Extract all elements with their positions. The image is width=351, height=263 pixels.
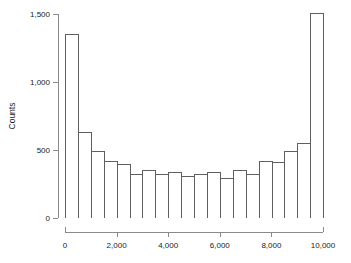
plot-area bbox=[65, 14, 323, 218]
histogram-bar bbox=[117, 164, 131, 218]
histogram-chart: 05001,0001,500 Counts 02,0004,0006,0008,… bbox=[0, 0, 351, 263]
y-axis-title: Counts bbox=[7, 66, 17, 166]
y-axis-tick bbox=[53, 218, 58, 219]
histogram-bar bbox=[168, 172, 182, 218]
histogram-bar bbox=[259, 161, 273, 218]
histogram-bar bbox=[194, 174, 208, 218]
x-axis-tick-label: 6,000 bbox=[210, 241, 230, 250]
histogram-bar bbox=[233, 170, 247, 218]
x-axis-line bbox=[65, 232, 323, 233]
x-axis-tick bbox=[168, 232, 169, 237]
bar-series bbox=[65, 14, 323, 218]
x-axis-tick bbox=[271, 232, 272, 237]
x-axis-tick bbox=[117, 232, 118, 237]
histogram-bar bbox=[272, 162, 286, 218]
x-axis-tick-label: 10,000 bbox=[311, 241, 335, 250]
x-axis-tick bbox=[323, 227, 324, 232]
y-axis-tick bbox=[53, 14, 58, 15]
histogram-bar bbox=[297, 143, 311, 218]
histogram-bar bbox=[91, 151, 105, 218]
x-axis-tick-label: 4,000 bbox=[158, 241, 178, 250]
histogram-bar bbox=[310, 13, 324, 218]
y-axis-tick bbox=[53, 150, 58, 151]
histogram-bar bbox=[78, 132, 92, 218]
histogram-bar bbox=[246, 174, 260, 218]
x-axis-tick bbox=[65, 227, 66, 232]
x-axis-tick-label: 8,000 bbox=[261, 241, 281, 250]
y-axis-tick bbox=[53, 82, 58, 83]
histogram-bar bbox=[207, 172, 221, 218]
histogram-bar bbox=[220, 178, 234, 218]
histogram-bar bbox=[104, 161, 118, 218]
x-axis-tick-label: 2,000 bbox=[107, 241, 127, 250]
histogram-bar bbox=[65, 34, 79, 218]
histogram-bar bbox=[142, 170, 156, 218]
histogram-bar bbox=[155, 174, 169, 218]
histogram-bar bbox=[130, 174, 144, 218]
x-axis-tick-label: 0 bbox=[63, 241, 67, 250]
y-axis-line bbox=[58, 14, 59, 218]
x-axis-tick bbox=[220, 232, 221, 237]
histogram-bar bbox=[181, 176, 195, 218]
y-axis-title-wrap: Counts bbox=[0, 14, 50, 218]
histogram-bar bbox=[284, 151, 298, 218]
